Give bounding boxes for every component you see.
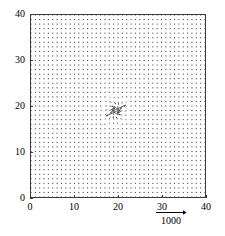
- vector-marker: [31, 69, 32, 70]
- vector-marker: [61, 105, 62, 106]
- vector-marker: [161, 92, 162, 93]
- vector-marker: [52, 60, 53, 61]
- vector-marker: [35, 151, 36, 152]
- vector-marker: [78, 92, 79, 93]
- vector-marker: [113, 65, 114, 66]
- vector-marker: [113, 178, 114, 179]
- vector-marker: [131, 60, 132, 61]
- vector-marker: [122, 51, 123, 52]
- vector-marker: [178, 133, 179, 134]
- vector-marker: [183, 28, 184, 29]
- vector-marker: [196, 65, 197, 66]
- vector-marker: [191, 156, 192, 157]
- vector-marker: [183, 55, 184, 56]
- vector-marker: [187, 160, 188, 161]
- vector-marker: [187, 37, 188, 38]
- vector-marker: [117, 37, 118, 38]
- vector-marker: [78, 101, 79, 102]
- vector-marker: [196, 165, 197, 166]
- vector-marker: [74, 156, 75, 157]
- vector-marker: [200, 142, 201, 143]
- vector-marker: [165, 65, 166, 66]
- vector-marker: [104, 192, 105, 193]
- vector-marker: [174, 19, 175, 20]
- vector-marker: [83, 187, 84, 188]
- vector-marker: [100, 42, 101, 43]
- vector-arrow: [118, 97, 119, 99]
- vector-marker: [91, 78, 92, 79]
- vector-marker: [204, 146, 205, 147]
- vector-marker: [126, 142, 127, 143]
- vector-marker: [31, 119, 32, 120]
- vector-marker: [57, 105, 58, 106]
- vector-marker: [100, 65, 101, 66]
- vector-marker: [113, 183, 114, 184]
- vector-marker: [44, 124, 45, 125]
- vector-marker: [139, 156, 140, 157]
- vector-marker: [44, 96, 45, 97]
- vector-marker: [44, 178, 45, 179]
- vector-marker: [109, 133, 110, 134]
- vector-marker: [161, 133, 162, 134]
- vector-marker: [183, 196, 184, 197]
- vector-marker: [165, 196, 166, 197]
- vector-marker: [200, 33, 201, 34]
- vector-marker: [70, 110, 71, 111]
- vector-marker: [161, 65, 162, 66]
- vector-marker: [144, 183, 145, 184]
- vector-marker: [161, 151, 162, 152]
- vector-marker: [100, 124, 101, 125]
- vector-marker: [104, 74, 105, 75]
- vector-marker: [131, 146, 132, 147]
- vector-marker: [161, 74, 162, 75]
- vector-marker: [135, 15, 136, 16]
- vector-marker: [52, 42, 53, 43]
- vector-marker: [139, 55, 140, 56]
- vector-marker: [126, 160, 127, 161]
- vector-marker: [187, 55, 188, 56]
- vector-marker: [196, 178, 197, 179]
- vector-marker: [165, 156, 166, 157]
- vector-marker: [96, 156, 97, 157]
- vector-marker: [183, 65, 184, 66]
- vector-marker: [35, 46, 36, 47]
- vector-marker: [157, 142, 158, 143]
- vector-marker: [100, 183, 101, 184]
- vector-marker: [178, 92, 179, 93]
- vector-marker: [31, 115, 32, 116]
- vector-marker: [44, 51, 45, 52]
- vector-marker: [74, 115, 75, 116]
- vector-marker: [126, 151, 127, 152]
- vector-marker: [96, 146, 97, 147]
- vector-marker: [178, 65, 179, 66]
- vector-marker: [52, 28, 53, 29]
- vector-marker: [57, 78, 58, 79]
- vector-marker: [52, 83, 53, 84]
- vector-marker: [139, 28, 140, 29]
- vector-marker: [117, 46, 118, 47]
- vector-marker: [96, 60, 97, 61]
- vector-marker: [78, 115, 79, 116]
- vector-marker: [196, 137, 197, 138]
- vector-marker: [148, 37, 149, 38]
- vector-marker: [178, 142, 179, 143]
- vector-marker: [35, 146, 36, 147]
- vector-marker: [144, 115, 145, 116]
- vector-marker: [113, 46, 114, 47]
- vector-marker: [144, 192, 145, 193]
- vector-marker: [35, 196, 36, 197]
- vector-marker: [65, 60, 66, 61]
- vector-marker: [204, 33, 205, 34]
- vector-marker: [170, 165, 171, 166]
- vector-marker: [204, 160, 205, 161]
- vector-marker: [83, 78, 84, 79]
- vector-marker: [109, 196, 110, 197]
- vector-marker: [83, 151, 84, 152]
- vector-marker: [57, 87, 58, 88]
- vector-marker: [96, 83, 97, 84]
- vector-marker: [161, 78, 162, 79]
- vector-marker: [126, 69, 127, 70]
- vector-marker: [113, 37, 114, 38]
- vector-marker: [200, 19, 201, 20]
- vector-marker: [113, 69, 114, 70]
